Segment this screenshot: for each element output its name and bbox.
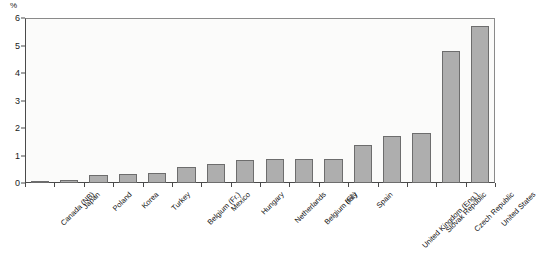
- x-axis-tick-mark: [378, 183, 379, 187]
- plot-area: 0123456: [25, 18, 495, 183]
- x-axis-tick-mark: [260, 183, 261, 187]
- bar: [266, 159, 284, 183]
- bar: [177, 167, 195, 183]
- y-axis-tick-label: 5: [15, 41, 20, 50]
- y-axis-tick-label: 3: [15, 96, 20, 105]
- y-axis-tick-mark: [21, 18, 25, 19]
- x-axis-label: Slovak Republic: [443, 190, 487, 234]
- y-axis-tick-mark: [21, 128, 25, 129]
- x-axis-tick-mark: [289, 183, 290, 187]
- x-axis-label: Belgium (Fr.): [205, 190, 242, 227]
- bar: [295, 159, 313, 183]
- x-axis-tick-mark: [84, 183, 85, 187]
- x-axis-tick-mark: [466, 183, 467, 187]
- bar: [412, 133, 430, 183]
- bar: [119, 174, 137, 183]
- x-axis-label: Italy: [343, 190, 359, 206]
- y-axis-tick-label: 2: [15, 124, 20, 133]
- x-axis-label: United Kingdom (Eng.): [420, 190, 480, 250]
- y-axis-tick-mark: [21, 73, 25, 74]
- bar: [324, 159, 342, 183]
- x-axis-tick-mark: [172, 183, 173, 187]
- x-axis-tick-mark: [113, 183, 114, 187]
- x-axis-tick-mark: [407, 183, 408, 187]
- x-axis-tick-mark: [436, 183, 437, 187]
- y-axis-tick-mark: [21, 45, 25, 46]
- x-axis-tick-mark: [231, 183, 232, 187]
- x-axis-label: Japan: [81, 190, 102, 211]
- x-axis-label: Korea: [140, 190, 161, 211]
- bar: [207, 164, 225, 183]
- x-axis-label: United States: [500, 190, 538, 228]
- bar: [383, 136, 401, 183]
- x-axis-tick-mark: [54, 183, 55, 187]
- bar: [442, 51, 460, 183]
- x-axis-tick-mark: [348, 183, 349, 187]
- y-axis-tick-label: 0: [15, 179, 20, 188]
- x-axis-label: Hungary: [260, 190, 286, 216]
- x-axis-label: Netherlands: [293, 190, 328, 225]
- bar: [89, 175, 107, 183]
- y-axis-tick-mark: [21, 155, 25, 156]
- x-axis-label: Canada (NB): [59, 190, 96, 227]
- y-axis-tick-mark: [21, 100, 25, 101]
- y-axis-unit-label: %: [10, 1, 17, 10]
- x-axis-label: Turkey: [170, 190, 192, 212]
- y-axis-tick-label: 4: [15, 69, 20, 78]
- x-axis-label: Mexico: [229, 190, 252, 213]
- x-axis-label: Belgium (Fl.): [323, 190, 359, 226]
- x-axis-tick-mark: [25, 183, 26, 187]
- bar: [471, 26, 489, 183]
- bar: [60, 180, 78, 183]
- y-axis-tick-label: 6: [15, 14, 20, 23]
- bar: [354, 145, 372, 184]
- bar: [148, 173, 166, 183]
- x-axis-label: Czech Republic: [472, 190, 516, 234]
- bar: [236, 160, 254, 183]
- x-axis-tick-mark: [201, 183, 202, 187]
- x-axis-tick-mark: [143, 183, 144, 187]
- y-axis-tick-label: 1: [15, 151, 20, 160]
- x-axis-tick-mark: [495, 183, 496, 187]
- x-axis-label: Poland: [111, 190, 134, 213]
- x-axis-tick-mark: [319, 183, 320, 187]
- x-axis-label: Spain: [374, 190, 394, 210]
- bar: [31, 181, 49, 183]
